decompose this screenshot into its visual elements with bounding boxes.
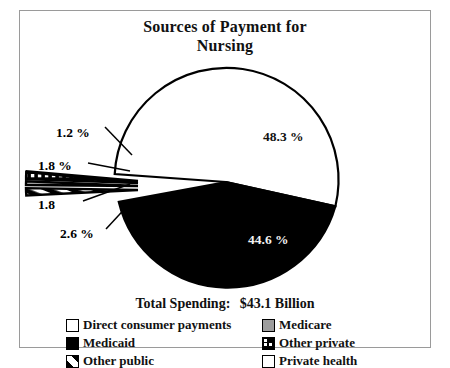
- callout-label-direct-consumer-payments: 1.2 %: [56, 125, 90, 141]
- legend-item-other-private: Other private: [262, 334, 406, 352]
- legend-swatch-private-health: [262, 355, 275, 368]
- legend-item-medicare: Medicare: [262, 316, 406, 334]
- callout-label-other-private: 1.8 %: [38, 158, 72, 174]
- legend-item-private-health: Private health: [262, 352, 406, 368]
- legend-item-direct-consumer-payments: Direct consumer payments: [66, 316, 262, 334]
- legend-label-medicaid: Medicaid: [83, 336, 135, 350]
- legend-label-direct-consumer-payments: Direct consumer payments: [83, 318, 231, 332]
- total-spending: Total Spending: $43.1 Billion: [20, 296, 430, 312]
- legend-swatch-other-public: [66, 355, 79, 368]
- callout-label-other-public: 2.6 %: [60, 226, 94, 242]
- legend-swatch-medicaid: [66, 337, 79, 350]
- slice-label-private-health: 48.3 %: [263, 129, 304, 145]
- legend-item-other-public: Other public: [66, 352, 262, 368]
- chart-legend: Direct consumer payments Medicare Medica…: [66, 316, 406, 368]
- pie-slice-other-public: [26, 188, 138, 195]
- chart-frame: Sources of Payment for Nursing: [19, 10, 431, 348]
- legend-label-other-private: Other private: [279, 336, 355, 350]
- slice-label-medicaid: 44.6 %: [248, 232, 289, 248]
- legend-item-medicaid: Medicaid: [66, 334, 262, 352]
- legend-swatch-other-private: [262, 337, 275, 350]
- total-spending-amount: $43.1 Billion: [240, 296, 315, 311]
- legend-label-medicare: Medicare: [279, 318, 331, 332]
- total-spending-label: Total Spending:: [136, 296, 231, 311]
- legend-swatch-medicare: [262, 319, 275, 332]
- callout-label-medicare: 1.8: [38, 197, 55, 213]
- legend-swatch-direct-consumer-payments: [66, 319, 79, 332]
- legend-label-other-public: Other public: [83, 354, 154, 368]
- legend-label-private-health: Private health: [279, 354, 357, 368]
